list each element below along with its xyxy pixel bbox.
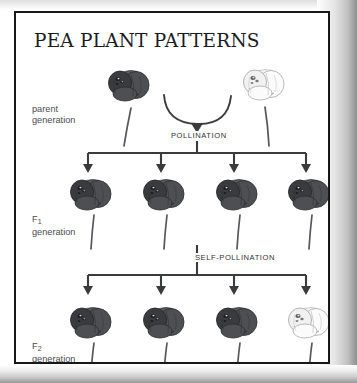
flower-f1-3 bbox=[217, 180, 258, 250]
flower-f2-4-white bbox=[289, 308, 330, 365]
pollination-connector bbox=[164, 95, 231, 124]
scan-shadow-top bbox=[0, 0, 357, 10]
scan-shadow-bottom bbox=[0, 365, 357, 383]
flower-parent-purple bbox=[109, 71, 150, 147]
f2-generation-group bbox=[71, 308, 330, 365]
flower-parent-white bbox=[244, 70, 285, 147]
caption-pollination: POLLINATION bbox=[168, 131, 230, 140]
caption-self-pollination: SELF-POLLINATION bbox=[192, 253, 278, 262]
flower-f1-2 bbox=[144, 180, 185, 250]
f1-generation-group bbox=[71, 180, 330, 250]
f2-bracket bbox=[83, 275, 311, 295]
inheritance-diagram bbox=[16, 13, 330, 364]
f1-bracket bbox=[83, 153, 311, 173]
flower-f2-3 bbox=[217, 308, 258, 365]
diagram-page: PEA PLANT PATTERNS parent generation F1 … bbox=[14, 11, 330, 364]
scanned-page-canvas: PEA PLANT PATTERNS parent generation F1 … bbox=[0, 0, 357, 383]
flower-f1-1 bbox=[71, 180, 112, 250]
flower-f2-1 bbox=[71, 308, 112, 365]
flower-f1-4 bbox=[289, 180, 330, 250]
flower-f2-2 bbox=[144, 308, 185, 365]
parent-generation-group bbox=[109, 70, 285, 154]
